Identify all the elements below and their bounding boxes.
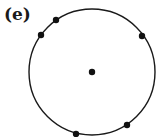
center-point: [89, 69, 95, 75]
point-upper-left-1: [53, 17, 59, 23]
circle-diagram: [0, 0, 162, 137]
point-bottom: [73, 131, 79, 137]
point-lower-right: [124, 122, 130, 128]
point-upper-right: [139, 33, 145, 39]
point-upper-left-2: [38, 32, 44, 38]
points-group: [38, 17, 145, 137]
